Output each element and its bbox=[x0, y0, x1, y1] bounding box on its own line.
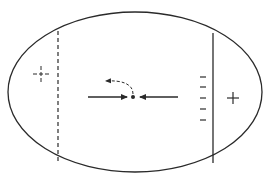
minus-marks bbox=[200, 77, 206, 120]
dashed-plus-icon bbox=[33, 66, 49, 82]
cell-outline bbox=[8, 12, 262, 172]
dashed-deflection-arrow bbox=[106, 81, 133, 94]
particle-dot bbox=[131, 95, 135, 99]
charge-diagram bbox=[0, 0, 270, 186]
plus-icon bbox=[227, 92, 239, 104]
